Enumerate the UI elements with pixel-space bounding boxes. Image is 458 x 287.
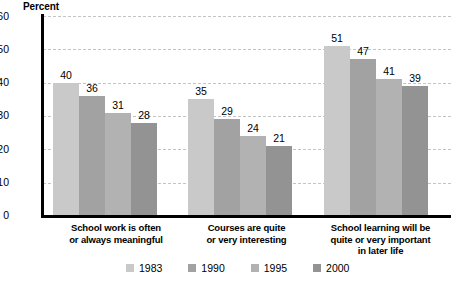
y-tick-0: 0 <box>0 210 9 221</box>
bar-1995-group2: 24 <box>240 136 266 216</box>
category-label-1: School work is often or always meaningfu… <box>41 222 191 245</box>
bar-value-label: 29 <box>212 106 242 117</box>
legend-item-2000[interactable]: 2000 <box>313 263 349 274</box>
bar-value-label: 24 <box>238 123 268 134</box>
bar-value-label: 28 <box>129 110 159 121</box>
category-label-2: Courses are quite or very interesting <box>180 222 313 245</box>
bar-group-2: 35 29 24 21 <box>188 16 300 216</box>
legend-swatch-icon <box>188 264 196 272</box>
chart-legend: 1983 1990 1995 2000 <box>126 263 349 274</box>
y-tick-50: 50 <box>0 44 9 55</box>
legend-swatch-icon <box>313 264 321 272</box>
bar-1983-group1: 40 <box>53 83 79 216</box>
y-tick-30: 30 <box>0 110 9 121</box>
category-label-line: School learning will be <box>308 222 453 234</box>
bar-1990-group3: 47 <box>350 59 376 216</box>
legend-label: 1990 <box>201 263 224 274</box>
bar-2000-group2: 21 <box>266 146 292 216</box>
legend-swatch-icon <box>126 264 134 272</box>
category-label-line: School work is often <box>41 222 191 234</box>
y-tick-40: 40 <box>0 77 9 88</box>
bar-2000-group1: 28 <box>131 123 157 216</box>
bar-group-3: 51 47 41 39 <box>324 16 436 216</box>
bar-value-label: 51 <box>322 33 352 44</box>
y-axis-title: Percent <box>23 1 59 12</box>
bar-value-label: 40 <box>51 70 81 81</box>
bar-value-label: 21 <box>264 133 294 144</box>
bar-1990-group2: 29 <box>214 119 240 216</box>
y-tick-10: 10 <box>0 177 9 188</box>
legend-swatch-icon <box>251 264 259 272</box>
legend-item-1995[interactable]: 1995 <box>251 263 287 274</box>
bar-1983-group2: 35 <box>188 99 214 216</box>
y-tick-60: 60 <box>0 11 9 22</box>
category-label-line: in later life <box>308 245 453 257</box>
category-label-line: Courses are quite <box>180 222 313 234</box>
bar-value-label: 31 <box>103 100 133 111</box>
x-axis-line <box>41 215 451 218</box>
category-label-3: School learning will be quite or very im… <box>308 222 453 257</box>
legend-label: 1983 <box>139 263 162 274</box>
y-tick-20: 20 <box>0 144 9 155</box>
bar-1995-group3: 41 <box>376 79 402 216</box>
legend-label: 1995 <box>264 263 287 274</box>
plot-area: 40 36 31 28 35 29 24 21 <box>43 16 451 216</box>
bar-value-label: 35 <box>186 86 216 97</box>
legend-item-1990[interactable]: 1990 <box>188 263 224 274</box>
bar-1983-group3: 51 <box>324 46 350 216</box>
bar-1990-group1: 36 <box>79 96 105 216</box>
category-label-line: quite or very important <box>308 234 453 246</box>
legend-item-1983[interactable]: 1983 <box>126 263 162 274</box>
bar-value-label: 36 <box>77 83 107 94</box>
category-label-line: or very interesting <box>180 234 313 246</box>
bar-value-label: 39 <box>400 73 430 84</box>
legend-label: 2000 <box>326 263 349 274</box>
bar-chart-figure: Percent 60 50 40 30 20 10 0 40 36 31 <box>0 0 458 287</box>
bar-2000-group3: 39 <box>402 86 428 216</box>
bar-value-label: 47 <box>348 46 378 57</box>
bar-1995-group1: 31 <box>105 113 131 216</box>
y-axis-line <box>41 14 44 218</box>
category-label-line: or always meaningful <box>41 234 191 246</box>
bar-group-1: 40 36 31 28 <box>53 16 165 216</box>
